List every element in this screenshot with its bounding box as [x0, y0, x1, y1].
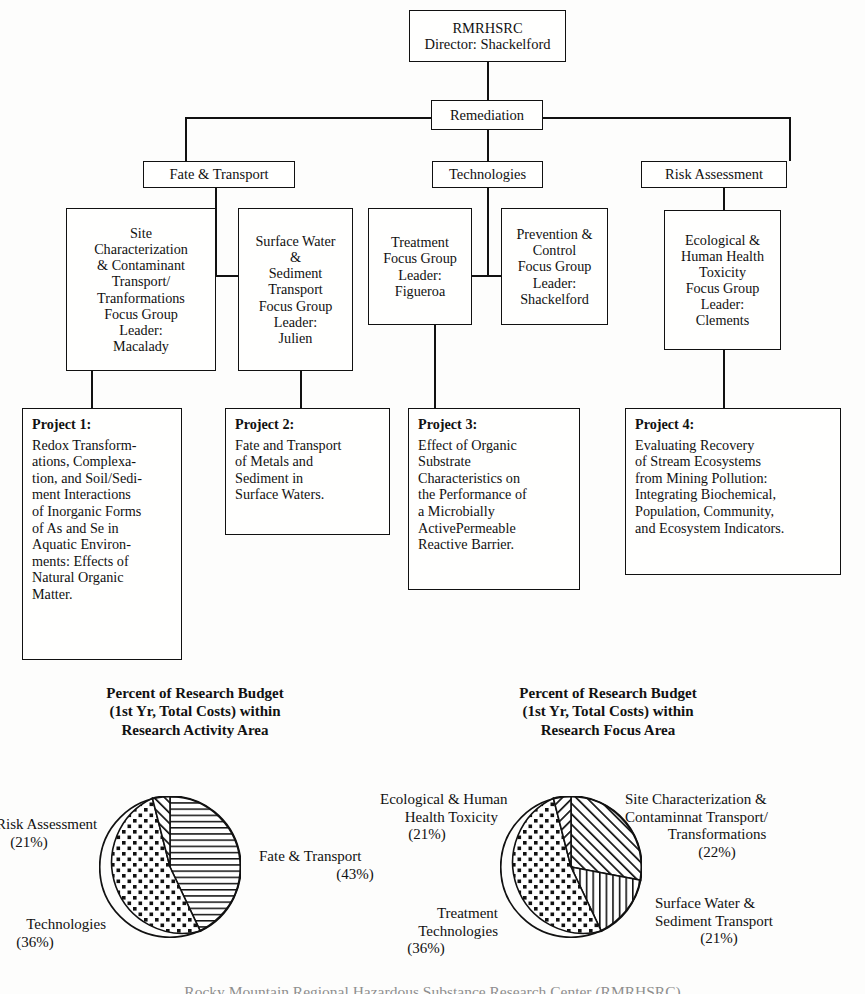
right-pie-label-site-line-0: Site Characterization & — [625, 791, 855, 809]
connector-risk-drop — [723, 188, 725, 210]
connector-site-to-project1 — [91, 371, 93, 409]
right-pie-label-surface-water: Surface Water & Sediment Transport (21%) — [655, 895, 845, 948]
right-pie-label-treatment-technologies: Treatment Technologies (36%) — [380, 905, 498, 958]
right-pie-label-site-characterization: Site Characterization & Contaminnat Tran… — [625, 791, 855, 862]
fg1-line-0: Surface Water — [255, 233, 335, 249]
box-activity-risk-assessment: Risk Assessment — [641, 161, 787, 188]
box-focus-prevention-control: Prevention & Control Focus Group Leader:… — [501, 208, 608, 325]
box-activity-fate-transport: Fate & Transport — [143, 161, 295, 188]
left-pie-label-risk-assessment: Risk Assessment (21%) — [0, 816, 96, 851]
right-chart-title-line-0: Percent of Research Budget — [438, 684, 778, 702]
box-director-line-1: Director: Shackelford — [424, 36, 550, 52]
p3-line-2: Characteristics on — [418, 470, 572, 487]
box-project-1: Project 1: Redox Transform- ations, Comp… — [22, 408, 182, 660]
right-pie-label-site-line-1: Contaminnat Transport/ — [625, 809, 855, 827]
box-activity-fate-transport-label: Fate & Transport — [169, 166, 268, 182]
fg0-line-2: & Contaminant — [97, 257, 185, 273]
p1-line-4: of Inorganic Forms — [32, 503, 174, 520]
fg4-line-1: Human Health — [681, 248, 764, 264]
project-4-title: Project 4: — [635, 416, 833, 433]
left-pie-label-fate-line-1: (43%) — [259, 866, 419, 884]
left-chart-title-line-2: Research Activity Area — [30, 721, 360, 739]
p1-line-1: ations, Complexa- — [32, 453, 174, 470]
fg0-line-7: Macalady — [113, 338, 169, 354]
connector-treatment-to-project3 — [434, 325, 436, 409]
right-pie-chart — [500, 796, 642, 938]
box-activity-technologies-label: Technologies — [449, 166, 526, 182]
right-pie-label-site-line-2: Transformations — [625, 826, 855, 844]
left-pie-label-risk-line-1: (21%) — [0, 834, 96, 852]
right-pie-label-eco-line-2: (21%) — [380, 826, 498, 844]
box-activity-technologies: Technologies — [432, 161, 543, 188]
connector-surfacewater-to-project2 — [300, 371, 302, 409]
p2-line-1: of Metals and — [235, 453, 382, 470]
p1-line-2: tion, and Soil/Sedi- — [32, 470, 174, 487]
p2-line-3: Surface Waters. — [235, 486, 382, 503]
p3-line-4: a Microbially — [418, 503, 572, 520]
left-pie-label-risk-line-0: Risk Assessment — [0, 816, 96, 834]
connector-remediation-left-drop — [185, 117, 187, 161]
fg0-line-4: Tranformations — [97, 290, 185, 306]
box-project-4: Project 4: Evaluating Recovery of Stream… — [625, 408, 841, 575]
box-project-3: Project 3: Effect of Organic Substrate C… — [408, 408, 580, 590]
right-pie-label-treat-line-2: (36%) — [380, 940, 498, 958]
p1-line-7: ments: Effects of — [32, 553, 174, 570]
left-pie-label-tech-line-1: (36%) — [0, 934, 106, 952]
fg2-line-3: Figueroa — [395, 283, 445, 299]
right-pie-label-ecological: Ecological & Human Health Toxicity (21%) — [380, 791, 498, 844]
fg1-line-3: Transport — [268, 281, 323, 297]
connector-remediation-mid-drop — [487, 130, 489, 161]
fg4-line-3: Focus Group — [686, 280, 760, 296]
right-pie-label-surface-line-2: (21%) — [655, 930, 845, 948]
right-pie-label-treat-line-1: Technologies — [380, 923, 498, 941]
fg1-line-4: Focus Group — [259, 298, 333, 314]
p4-line-5: and Ecosystem Indicators. — [635, 520, 833, 537]
box-focus-site-characterization: Site Characterization & Contaminant Tran… — [66, 208, 216, 371]
p3-line-1: Substrate — [418, 453, 572, 470]
p4-line-3: Integrating Biochemical, — [635, 486, 833, 503]
right-pie-label-eco-line-0: Ecological & Human — [380, 791, 498, 809]
p4-line-4: Population, Community, — [635, 503, 833, 520]
box-focus-ecological-human-health: Ecological & Human Health Toxicity Focus… — [664, 210, 781, 350]
right-chart-title-line-1: (1st Yr, Total Costs) within — [438, 702, 778, 720]
p3-line-5: ActivePermeable — [418, 520, 572, 537]
box-remediation-line-0: Remediation — [450, 107, 524, 123]
p2-line-0: Fate and Transport — [235, 437, 382, 454]
fg4-line-4: Leader: — [701, 296, 744, 312]
right-chart-title: Percent of Research Budget (1st Yr, Tota… — [438, 684, 778, 739]
box-focus-treatment: Treatment Focus Group Leader: Figueroa — [368, 208, 472, 325]
right-pie-label-site-line-3: (22%) — [625, 844, 855, 862]
project-2-title: Project 2: — [235, 416, 382, 433]
connector-technologies-drop — [487, 188, 489, 276]
fg1-line-6: Julien — [279, 330, 313, 346]
fg0-line-0: Site — [130, 225, 152, 241]
fg2-line-0: Treatment — [391, 234, 449, 250]
left-chart-title: Percent of Research Budget (1st Yr, Tota… — [30, 684, 360, 739]
fg0-line-3: Transport/ — [112, 273, 171, 289]
p3-line-3: the Performance of — [418, 486, 572, 503]
box-project-2: Project 2: Fate and Transport of Metals … — [225, 408, 390, 535]
left-pie-label-tech-line-0: Technologies — [0, 916, 106, 934]
box-director: RMRHSRC Director: Shackelford — [409, 10, 566, 62]
p1-line-5: of As and Se in — [32, 520, 174, 537]
box-activity-risk-assessment-label: Risk Assessment — [665, 166, 763, 182]
org-chart-page: RMRHSRC Director: Shackelford Remediatio… — [0, 0, 865, 994]
box-director-line-0: RMRHSRC — [452, 20, 522, 36]
fg0-line-6: Leader: — [119, 322, 162, 338]
p1-line-3: ment Interactions — [32, 486, 174, 503]
fg4-line-2: Toxicity — [699, 264, 746, 280]
connector-director-to-remediation — [487, 62, 489, 100]
p1-line-8: Natural Organic — [32, 569, 174, 586]
fg3-line-2: Focus Group — [518, 258, 592, 274]
right-pie-label-eco-line-1: Health Toxicity — [380, 809, 498, 827]
box-focus-surface-water-sediment: Surface Water & Sediment Transport Focus… — [238, 208, 353, 371]
p1-line-0: Redox Transform- — [32, 437, 174, 454]
left-pie-label-technologies: Technologies (36%) — [0, 916, 106, 951]
fg3-line-3: Leader: — [533, 275, 576, 291]
fg2-line-2: Leader: — [398, 267, 441, 283]
fg0-line-1: Characterization — [94, 241, 188, 257]
connector-remediation-right-drop — [789, 117, 791, 161]
fg2-line-1: Focus Group — [383, 250, 457, 266]
p4-line-2: from Mining Pollution: — [635, 470, 833, 487]
p4-line-1: of Stream Ecosystems — [635, 453, 833, 470]
